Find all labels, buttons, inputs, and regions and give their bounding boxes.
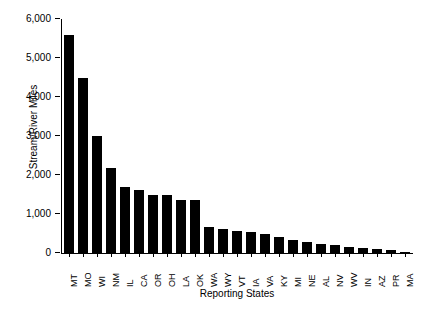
bar (302, 242, 312, 253)
x-axis-ticks: MTMOWINMILCAOROHLAOKWAWYVTIAVAKYMINEALNV… (62, 254, 412, 288)
x-tick-mark (97, 254, 98, 257)
bar (134, 190, 144, 253)
y-tick-label: 5,000 (0, 51, 51, 64)
bar (400, 252, 410, 253)
bar (246, 232, 256, 253)
x-tick-mark (293, 254, 294, 257)
x-tick-mark (335, 254, 336, 257)
y-tick-mark (55, 96, 60, 97)
y-tick-mark (55, 135, 60, 136)
y-tick-label: 4,000 (0, 90, 51, 103)
bar (232, 231, 242, 253)
x-tick-mark (223, 254, 224, 257)
bar-series (62, 19, 412, 253)
y-tick-mark (55, 57, 60, 58)
y-tick-label: 0 (0, 246, 51, 259)
x-axis-title: Reporting States (61, 288, 413, 300)
y-tick-label: 6,000 (0, 12, 51, 25)
bar (120, 187, 130, 253)
bar (344, 247, 354, 253)
x-tick-mark (363, 254, 364, 257)
x-tick-mark (139, 254, 140, 257)
x-tick-mark (153, 254, 154, 257)
bar (288, 240, 298, 253)
x-tick-mark (181, 254, 182, 257)
bar (162, 195, 172, 253)
y-tick-label: 1,000 (0, 207, 51, 220)
bar (260, 234, 270, 253)
x-tick-mark (307, 254, 308, 257)
x-tick-mark (209, 254, 210, 257)
bar (92, 136, 102, 253)
bar (386, 250, 396, 253)
bar (218, 229, 228, 253)
bar (176, 200, 186, 253)
bar (106, 168, 116, 253)
bar (148, 195, 158, 254)
x-tick-mark (391, 254, 392, 257)
bar (358, 248, 368, 253)
figure-caption-fragment (18, 306, 418, 314)
y-tick-label: 3,000 (0, 129, 51, 142)
x-tick-mark (405, 254, 406, 257)
x-tick-mark (195, 254, 196, 257)
bar (64, 35, 74, 253)
x-tick-mark (265, 254, 266, 257)
bar (204, 227, 214, 253)
bar (190, 200, 200, 253)
x-tick-mark (237, 254, 238, 257)
x-tick-mark (125, 254, 126, 257)
y-tick-mark (55, 18, 60, 19)
bar (274, 237, 284, 253)
bar (78, 78, 88, 253)
x-tick-mark (279, 254, 280, 257)
y-tick-mark (55, 174, 60, 175)
x-tick-mark (167, 254, 168, 257)
y-tick-mark (55, 252, 60, 253)
x-tick-mark (111, 254, 112, 257)
bar (372, 249, 382, 253)
figure-container: Stream/River Miles 01,0002,0003,0004,000… (0, 0, 437, 314)
x-tick-mark (321, 254, 322, 257)
x-tick-mark (69, 254, 70, 257)
y-tick-label: 2,000 (0, 168, 51, 181)
bar (316, 244, 326, 253)
x-tick-mark (377, 254, 378, 257)
x-tick-label: MA (405, 274, 415, 288)
y-tick-mark (55, 213, 60, 214)
x-tick-mark (349, 254, 350, 257)
x-tick-mark (83, 254, 84, 257)
bar (330, 245, 340, 253)
x-tick-mark (251, 254, 252, 257)
